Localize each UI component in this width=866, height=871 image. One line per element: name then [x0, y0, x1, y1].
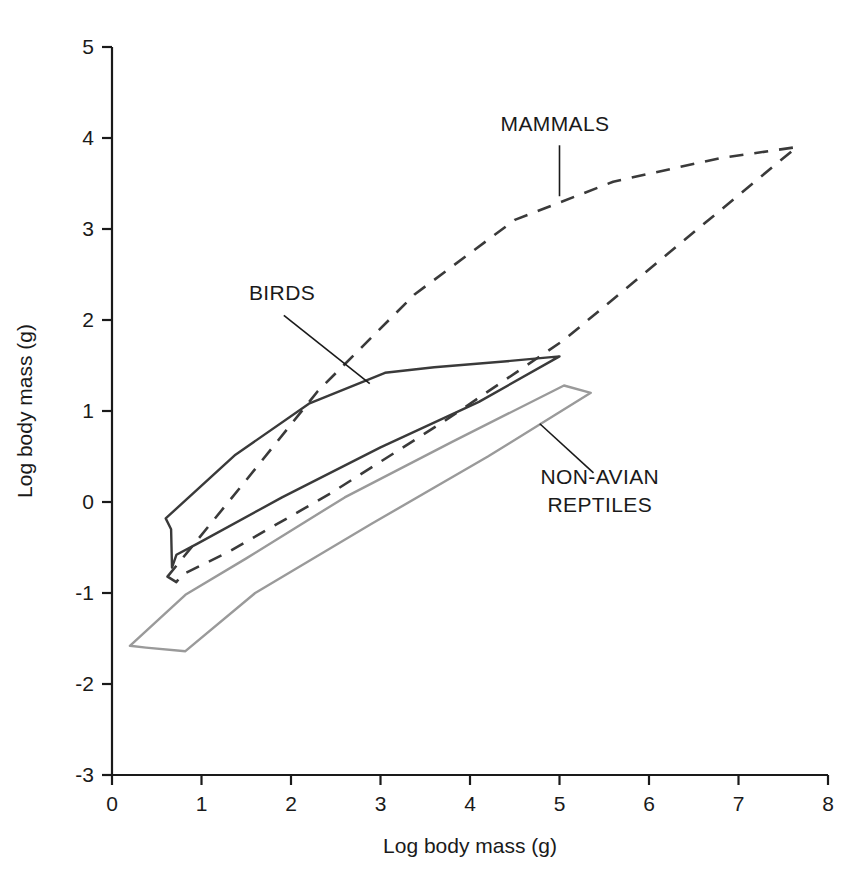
x-axis-title: Log body mass (g): [383, 834, 557, 857]
series-hull-birds: [166, 356, 560, 567]
annotation-leader-line: [284, 315, 370, 383]
x-tick-label: 7: [733, 792, 745, 815]
chart-canvas: 543210-1-2-3012345678Log body mass (g)Lo…: [0, 0, 866, 871]
annotation-label-text: NON-AVIAN: [540, 465, 659, 488]
x-tick-label: 6: [643, 792, 655, 815]
x-tick-label: 1: [196, 792, 208, 815]
x-tick-label: 0: [106, 792, 118, 815]
annotation-label-text: BIRDS: [249, 281, 315, 304]
y-tick-label: 0: [82, 490, 94, 513]
annotation-label-text: MAMMALS: [501, 112, 610, 135]
y-tick-label: -2: [75, 672, 94, 695]
x-tick-label: 4: [464, 792, 476, 815]
series-hull-non-avian-reptiles: [130, 386, 591, 652]
annotation-birds: BIRDS: [249, 281, 315, 304]
y-axis-title: Log body mass (g): [13, 324, 36, 498]
x-tick-label: 3: [375, 792, 387, 815]
y-tick-label: 4: [82, 126, 94, 149]
y-tick-label: 1: [82, 399, 94, 422]
annotation-non-avian-reptiles: NON-AVIANREPTILES: [540, 465, 659, 516]
x-tick-label: 2: [285, 792, 297, 815]
y-tick-label: 2: [82, 308, 94, 331]
figure-container: 543210-1-2-3012345678Log body mass (g)Lo…: [0, 0, 866, 871]
y-tick-label: -1: [75, 581, 94, 604]
annotation-label-text: REPTILES: [547, 493, 652, 516]
annotation-mammals: MAMMALS: [501, 112, 610, 135]
x-tick-label: 8: [822, 792, 834, 815]
y-tick-label: 5: [82, 35, 94, 58]
y-tick-label: -3: [75, 763, 94, 786]
series-hull-mammals: [168, 147, 797, 582]
y-tick-label: 3: [82, 217, 94, 240]
x-tick-label: 5: [554, 792, 566, 815]
